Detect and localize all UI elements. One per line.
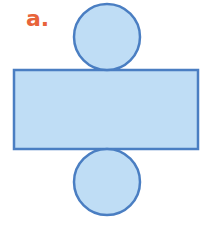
cylinder-net-diagram — [0, 0, 216, 232]
lateral-surface-rect — [14, 70, 198, 149]
bottom-base-circle — [74, 149, 140, 215]
top-base-circle — [74, 4, 140, 70]
